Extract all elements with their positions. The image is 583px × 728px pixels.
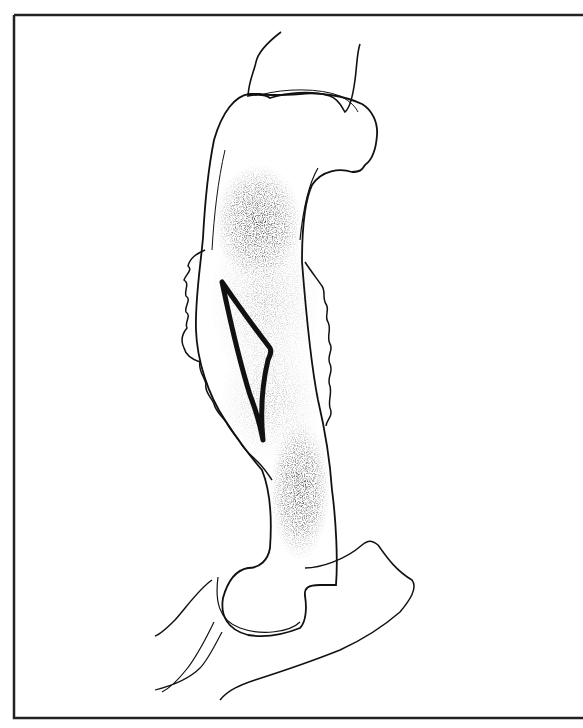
lower-strands bbox=[155, 622, 222, 692]
illustration-frame bbox=[0, 0, 583, 728]
lower-adjacent-bone bbox=[155, 580, 212, 636]
upper-adjacent-bone bbox=[248, 32, 360, 112]
lower-adjacent-bone bbox=[220, 541, 414, 700]
bone-illustration bbox=[0, 0, 583, 728]
